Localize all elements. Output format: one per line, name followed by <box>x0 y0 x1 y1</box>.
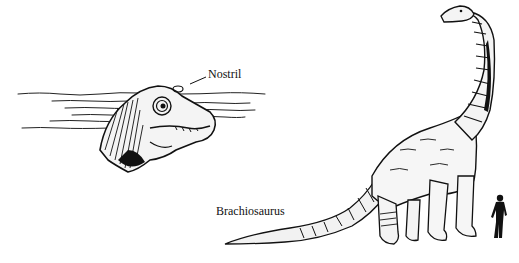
human-silhouette <box>491 195 507 238</box>
nostril-label: Nostril <box>208 67 241 82</box>
submerged-head <box>100 77 215 172</box>
brachiosaurus-illustration: Nostril Brachiosaurus <box>0 0 519 263</box>
illustration-canvas <box>0 0 519 263</box>
species-label: Brachiosaurus <box>216 204 285 219</box>
